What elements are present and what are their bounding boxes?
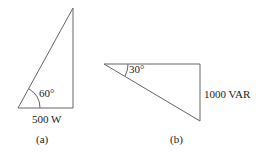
caption-a: (a) — [36, 133, 48, 145]
angle-arc-b — [125, 64, 128, 76]
base-label-a: 500 W — [32, 113, 61, 125]
angle-label-b: 30° — [129, 63, 144, 75]
side-label-b: 1000 VAR — [204, 88, 250, 100]
diagram-canvas — [0, 0, 262, 155]
caption-b: (b) — [170, 133, 183, 145]
triangle-b-shape — [104, 64, 200, 121]
triangle-b — [104, 64, 200, 121]
angle-label-a: 60° — [39, 87, 54, 99]
